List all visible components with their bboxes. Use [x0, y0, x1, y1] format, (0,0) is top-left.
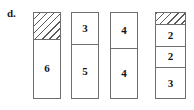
bar-4-segment-2-value: 2 [168, 30, 174, 41]
bar-3-segment-1-value: 4 [121, 25, 127, 36]
bar-3-segment-2: 4 [111, 48, 137, 98]
bar-4-segment-2: 2 [156, 24, 185, 46]
bar-3-segment-2-value: 4 [121, 68, 127, 79]
bar-4-segment-4: 3 [156, 67, 185, 98]
bar-model-figure: d. 6 3 5 4 4 2 2 3 [0, 0, 194, 110]
bar-2-segment-2: 5 [72, 44, 98, 98]
bar-4-segment-3: 2 [156, 46, 185, 68]
bar-4-segment-3-value: 2 [168, 51, 174, 62]
bar-1-segment-2: 6 [34, 39, 60, 98]
bar-2-segment-2-value: 5 [82, 66, 88, 77]
bar-4: 2 2 3 [155, 12, 186, 99]
bar-4-segment-4-value: 3 [168, 78, 174, 89]
bar-2-segment-1: 3 [72, 13, 98, 44]
bar-1-segment-2-value: 6 [44, 63, 50, 74]
figure-label: d. [7, 8, 16, 19]
bar-3-segment-1: 4 [111, 13, 137, 48]
bar-1: 6 [33, 12, 61, 99]
bar-2-segment-1-value: 3 [82, 23, 88, 34]
bar-4-segment-1 [156, 13, 185, 24]
bar-1-segment-1 [34, 13, 60, 39]
bar-3: 4 4 [110, 12, 138, 99]
bar-2: 3 5 [71, 12, 99, 99]
